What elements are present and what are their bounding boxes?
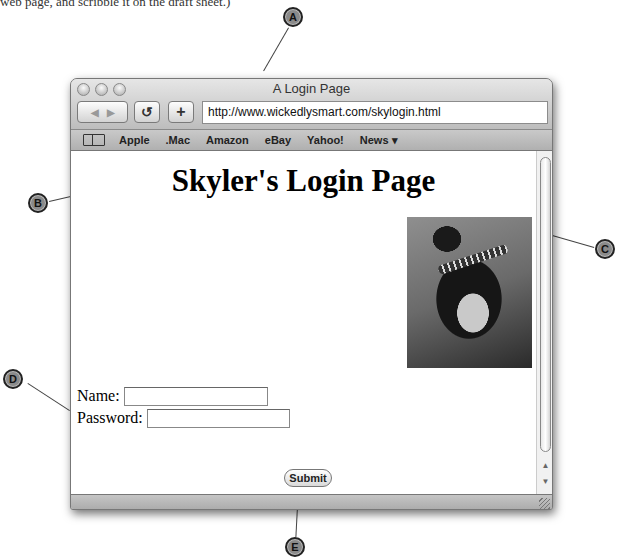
- login-form: Name: Password:: [77, 385, 290, 429]
- name-label: Name:: [77, 387, 120, 405]
- scroll-down-arrow-icon[interactable]: ▼: [537, 477, 553, 486]
- page-heading: Skyler's Login Page: [71, 163, 536, 199]
- scroll-up-arrow-icon[interactable]: ▲: [537, 461, 553, 470]
- callout-b: B: [28, 193, 48, 213]
- browser-window: A Login Page ◀ ▶ ↺ + http://www.wickedly…: [70, 78, 553, 510]
- bookmarks-book-icon[interactable]: [83, 134, 105, 146]
- bookmark-ebay[interactable]: eBay: [265, 134, 291, 146]
- title-bar[interactable]: A Login Page ◀ ▶ ↺ + http://www.wickedly…: [71, 79, 552, 129]
- bookmarks-bar: Apple .Mac Amazon eBay Yahoo! News ▾: [71, 129, 552, 151]
- bookmark-news-menu[interactable]: News ▾: [360, 134, 398, 147]
- callout-d: D: [3, 369, 23, 389]
- forward-arrow-icon[interactable]: ▶: [107, 107, 115, 118]
- add-bookmark-button[interactable]: +: [168, 101, 194, 123]
- intro-text: web page, and scribble it on the draft s…: [0, 0, 230, 10]
- bookmark-amazon[interactable]: Amazon: [206, 134, 249, 146]
- address-bar[interactable]: http://www.wickedlysmart.com/skylogin.ht…: [202, 101, 548, 124]
- back-forward-buttons[interactable]: ◀ ▶: [77, 101, 128, 123]
- window-title: A Login Page: [71, 81, 552, 96]
- bookmark-apple[interactable]: Apple: [119, 134, 150, 146]
- back-arrow-icon[interactable]: ◀: [91, 107, 99, 118]
- reload-icon: ↺: [141, 104, 153, 120]
- page-content: Skyler's Login Page Name: Password: Subm…: [71, 151, 536, 494]
- callout-d-line: [27, 383, 69, 411]
- bookmark-mac[interactable]: .Mac: [166, 134, 190, 146]
- callout-a-line: [263, 28, 289, 72]
- resize-grip-icon[interactable]: [539, 498, 550, 509]
- scroll-thumb[interactable]: [540, 157, 551, 452]
- callout-c: C: [595, 239, 615, 259]
- submit-button[interactable]: Submit: [284, 469, 332, 487]
- skyler-photo: [407, 217, 532, 368]
- password-label: Password:: [77, 409, 143, 427]
- bookmark-yahoo[interactable]: Yahoo!: [307, 134, 344, 146]
- vertical-scrollbar[interactable]: ▲ ▼: [536, 151, 553, 494]
- name-input[interactable]: [124, 387, 268, 406]
- password-input[interactable]: [147, 409, 290, 428]
- plus-icon: +: [176, 103, 185, 121]
- reload-button[interactable]: ↺: [134, 101, 160, 123]
- callout-e: E: [285, 537, 305, 557]
- status-bar: [71, 494, 552, 510]
- callout-a: A: [283, 7, 303, 27]
